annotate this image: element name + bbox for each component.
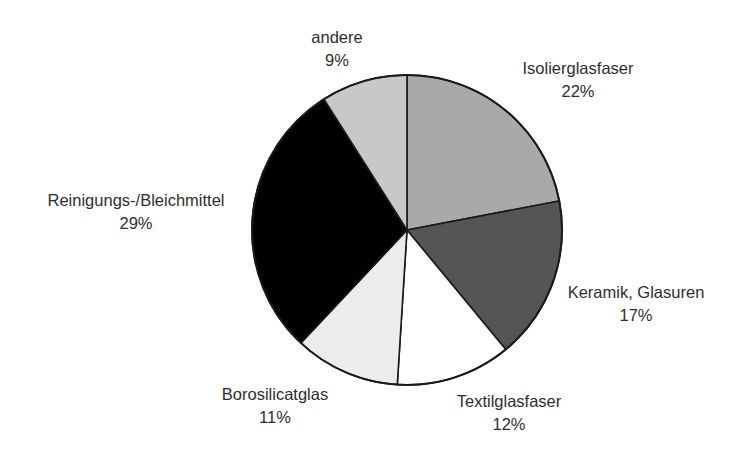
slice-value-andere: 9% (325, 51, 349, 69)
pie-chart: Isolierglasfaser22%Keramik, Glasuren17%T… (0, 0, 742, 456)
slice-value-borosilicatglas: 11% (259, 408, 291, 426)
slice-label-isolierglasfaser: Isolierglasfaser (523, 59, 634, 77)
slice-value-isolierglasfaser: 22% (561, 82, 594, 100)
slice-value-reinigungs-bleichmittel: 29% (119, 214, 152, 232)
slice-label-reinigungs-bleichmittel: Reinigungs-/Bleichmittel (48, 191, 225, 209)
slice-label-borosilicatglas: Borosilicatglas (222, 385, 328, 403)
slice-label-keramik-glasuren: Keramik, Glasuren (568, 283, 705, 301)
slice-label-andere: andere (311, 28, 362, 46)
pie-slices (252, 75, 562, 385)
slice-value-textilglasfaser: 12% (492, 415, 525, 433)
slice-label-textilglasfaser: Textilglasfaser (457, 392, 562, 410)
slice-value-keramik-glasuren: 17% (619, 306, 652, 324)
